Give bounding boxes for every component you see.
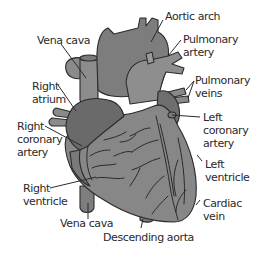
label-right-atrium: Right atrium <box>32 80 66 106</box>
ductus-ligament <box>146 52 154 64</box>
label-vena-cava-bottom: Vena cava <box>60 217 113 230</box>
label-right-ventricle: Right ventricle <box>23 182 68 208</box>
label-left-coronary-artery: Left coronary artery <box>203 111 251 150</box>
label-cardiac-vein: Cardiac vein <box>203 197 245 223</box>
leader-cardiac-vein <box>196 200 200 205</box>
label-descending-aorta: Descending aorta <box>103 231 194 244</box>
label-vena-cava-top: Vena cava <box>37 34 90 47</box>
label-aortic-arch: Aortic arch <box>165 10 221 23</box>
label-left-ventricle: Left ventricle <box>205 158 250 184</box>
label-pulmonary-veins: Pulmonary veins <box>195 74 253 100</box>
heart-diagram: Aortic arch Vena cava Pulmonary artery P… <box>0 0 259 257</box>
leader-left-ventricle <box>197 155 202 161</box>
vena-cava-opening <box>80 55 98 61</box>
leader-pulmonary-veins <box>186 81 194 98</box>
label-pulmonary-artery: Pulmonary artery <box>183 33 241 59</box>
